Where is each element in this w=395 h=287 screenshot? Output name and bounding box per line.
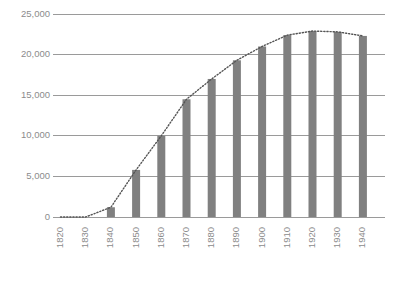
bars-group <box>107 31 367 217</box>
y-axis-tick-label: 10,000 <box>21 129 50 140</box>
y-axis-tick-label: 5,000 <box>26 170 50 181</box>
x-axis-tick-label: 1910 <box>281 227 292 248</box>
bar <box>208 79 216 217</box>
x-axis-tick-label: 1940 <box>356 227 367 248</box>
x-axis-tick-label: 1900 <box>256 227 267 248</box>
x-axis-tick-label: 1820 <box>54 227 65 248</box>
x-axis-tick-label: 1850 <box>130 227 141 248</box>
x-axis-tick-label: 1870 <box>180 227 191 248</box>
x-axis-tick-label: 1880 <box>205 227 216 248</box>
bar <box>258 46 266 217</box>
bar <box>233 60 241 217</box>
y-axis-tick-marks <box>53 14 61 217</box>
bar <box>132 170 140 217</box>
y-axis-tick-label: 15,000 <box>21 89 50 100</box>
bar <box>283 35 291 217</box>
y-axis-tick-label: 25,000 <box>21 8 50 19</box>
y-axis-labels: 05,00010,00015,00020,00025,000 <box>21 8 50 222</box>
bar <box>157 136 165 217</box>
x-axis-tick-label: 1920 <box>306 227 317 248</box>
bar <box>334 32 342 217</box>
bar-chart: 05,00010,00015,00020,00025,000 182018301… <box>0 0 395 287</box>
chart-container: 05,00010,00015,00020,00025,000 182018301… <box>0 0 395 287</box>
x-axis-tick-label: 1830 <box>79 227 90 248</box>
x-axis-tick-label: 1840 <box>104 227 115 248</box>
x-axis-tick-label: 1890 <box>230 227 241 248</box>
x-axis-tick-label: 1860 <box>155 227 166 248</box>
bar <box>183 99 191 217</box>
bar <box>309 31 317 217</box>
x-axis-labels: 1820183018401850186018701880189019001910… <box>54 227 367 248</box>
y-axis-tick-label: 20,000 <box>21 48 50 59</box>
x-axis-tick-label: 1930 <box>331 227 342 248</box>
y-axis-tick-label: 0 <box>45 211 50 222</box>
bar <box>359 36 367 217</box>
